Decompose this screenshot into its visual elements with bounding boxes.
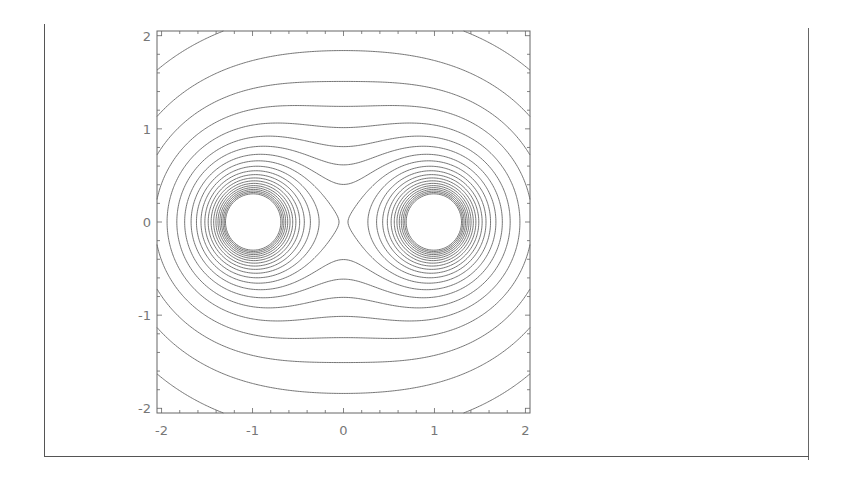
x-tick-label: 1 <box>430 423 438 438</box>
contour-line <box>157 31 530 413</box>
x-axis-tick-labels: -2 -1 0 1 2 <box>155 423 530 438</box>
contour-lines <box>157 31 530 413</box>
y-tick-label: 2 <box>143 29 151 44</box>
x-tick-label: 2 <box>521 423 529 438</box>
x-tick-label: -1 <box>246 423 259 438</box>
plot-frame <box>157 31 530 413</box>
y-tick-label: 1 <box>143 122 151 137</box>
axis-ticks <box>157 31 530 413</box>
y-tick-label: 0 <box>143 215 151 230</box>
y-tick-label: -1 <box>138 308 151 323</box>
x-tick-label: -2 <box>155 423 168 438</box>
y-tick-label: -2 <box>138 401 151 416</box>
x-tick-label: 0 <box>339 423 347 438</box>
y-axis-tick-labels: 2 1 0 -1 -2 <box>138 29 151 417</box>
contour-plot: -2 -1 0 1 2 2 1 0 -1 -2 <box>0 0 847 482</box>
